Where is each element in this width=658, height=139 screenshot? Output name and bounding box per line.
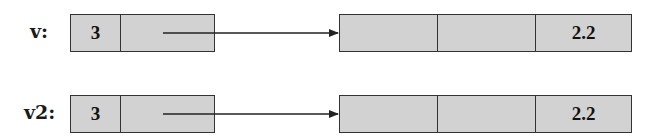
pointer-arrows (0, 0, 658, 139)
